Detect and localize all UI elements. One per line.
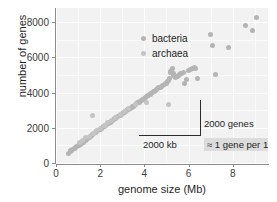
y-tick-label: 8000 [27,17,49,28]
gridline-vertical [100,8,101,163]
gridline-vertical-minor [122,8,123,163]
x-tick-mark [233,164,234,167]
data-point-archaea [133,102,138,107]
gridline-vertical [189,8,190,163]
annotation-rate-label: ≈ 1 gene per 1000 bp [204,138,268,151]
y-tick-label: 6000 [27,52,49,63]
x-tick-label: 2 [97,168,103,179]
annotation-rise-line [200,100,201,136]
gridline-horizontal-minor [56,110,268,111]
data-point-bacteria [193,66,198,71]
x-tick-mark [189,164,190,167]
data-point-bacteria [210,43,215,48]
data-point-bacteria [254,15,259,20]
data-point-bacteria [181,70,186,75]
gridline-horizontal [56,22,268,23]
data-point-bacteria [184,77,189,82]
legend-label-archaea: archaea [152,48,188,59]
data-point-archaea [166,102,171,107]
y-tick-mark [52,22,55,23]
x-tick-mark [144,164,145,167]
y-tick-mark [52,93,55,94]
data-point-archaea [90,113,95,118]
x-tick-mark [100,164,101,167]
y-tick-label: 4000 [27,87,49,98]
annotation-rise-label: 2000 genes [204,118,254,129]
x-tick-label: 4 [142,168,148,179]
legend-item-archaea: archaea [141,46,188,61]
annotation-run-line [139,135,201,136]
annotation-run-label: 2000 kb [143,139,177,150]
data-point-bacteria [195,76,200,81]
legend-marker-archaea [141,51,146,56]
x-tick-label: 0 [53,168,59,179]
legend-item-bacteria: bacteria [141,31,188,46]
plot-area: 2000 genes 2000 kb ≈ 1 gene per 1000 bp … [56,8,268,163]
gridline-vertical [56,8,57,163]
data-point-bacteria [226,45,231,50]
gridline-horizontal [56,93,268,94]
chart-legend: bacteria archaea [141,31,188,61]
y-tick-mark [52,128,55,129]
data-point-bacteria [243,23,248,28]
legend-marker-bacteria [141,36,146,41]
y-tick-label: 0 [43,158,49,169]
y-tick-mark [52,57,55,58]
legend-label-bacteria: bacteria [152,33,188,44]
gridline-horizontal-minor [56,75,268,76]
y-tick-label: 2000 [27,122,49,133]
x-axis-label: genome size (Mb) [56,183,268,195]
x-tick-label: 8 [230,168,236,179]
x-tick-mark [56,164,57,167]
scatter-chart-figure: 2000 genes 2000 kb ≈ 1 gene per 1000 bp … [0,0,277,202]
y-axis-label: number of genes [16,0,28,126]
x-axis-line [56,164,269,165]
y-tick-mark [52,163,55,164]
data-point-bacteria [208,32,213,37]
data-point-archaea [144,100,149,105]
data-point-bacteria [213,72,218,77]
x-tick-label: 6 [186,168,192,179]
y-axis-line [55,8,56,164]
